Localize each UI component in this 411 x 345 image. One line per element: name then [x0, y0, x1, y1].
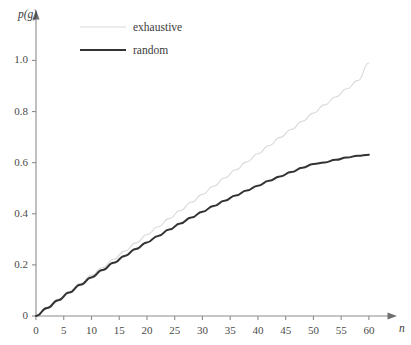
series-line-exhaustive: [36, 63, 369, 316]
x-tick-label: 35: [215, 325, 245, 336]
x-tick-label: 0: [21, 325, 51, 336]
x-axis-ticks: [36, 316, 369, 320]
x-tick-label: 5: [49, 325, 79, 336]
data-series-group: [36, 63, 369, 316]
legend-label-exhaustive: exhaustive: [133, 22, 182, 34]
y-tick-label: 0: [0, 310, 28, 321]
y-tick-label: 1.0: [0, 54, 28, 65]
chart-figure: p(g) n 00.20.40.60.81.0 0510152025303540…: [0, 0, 411, 345]
series-line-random: [36, 155, 369, 316]
x-tick-label: 30: [187, 325, 217, 336]
y-tick-label: 0.2: [0, 259, 28, 270]
legend-label-random: random: [133, 45, 168, 57]
x-tick-label: 45: [271, 325, 301, 336]
x-tick-label: 15: [104, 325, 134, 336]
x-tick-label: 60: [354, 325, 384, 336]
y-tick-label: 0.8: [0, 106, 28, 117]
x-tick-label: 50: [298, 325, 328, 336]
x-tick-label: 55: [326, 325, 356, 336]
x-tick-label: 25: [160, 325, 190, 336]
plot-area: [0, 0, 411, 345]
y-tick-label: 0.6: [0, 157, 28, 168]
y-axis-title: p(g): [18, 9, 37, 21]
y-tick-label: 0.4: [0, 208, 28, 219]
x-axis: [36, 312, 397, 319]
x-tick-label: 20: [132, 325, 162, 336]
y-axis-ticks: [32, 60, 36, 316]
legend-swatch-group: [80, 27, 126, 50]
x-tick-label: 10: [76, 325, 106, 336]
x-axis-title: n: [399, 323, 405, 335]
x-tick-label: 40: [243, 325, 273, 336]
